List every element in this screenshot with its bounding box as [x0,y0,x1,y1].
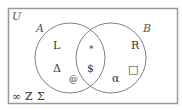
set-b-element-r: R [131,39,140,52]
outside-element-sigma: Σ [37,90,45,103]
intersection-element-dollar: $ [87,62,94,75]
set-a-label: A [35,22,44,35]
set-a-element-l: L [53,39,61,52]
intersection-element-asterisk: ∗ [88,42,94,52]
set-b-element-alpha: α [112,72,120,85]
universe-frame [9,9,178,104]
set-b-label: B [142,22,151,35]
universe-label: U [12,10,22,23]
set-b-element-square: □ [128,63,138,76]
set-a-element-at: @ [69,74,78,84]
venn-diagram: U A B L Δ @ ∗ $ R □ α ∞ Z Σ [0,0,182,110]
set-a-element-delta: Δ [53,62,61,75]
outside-element-infinity: ∞ [12,90,21,103]
outside-element-z: Z [25,90,33,103]
